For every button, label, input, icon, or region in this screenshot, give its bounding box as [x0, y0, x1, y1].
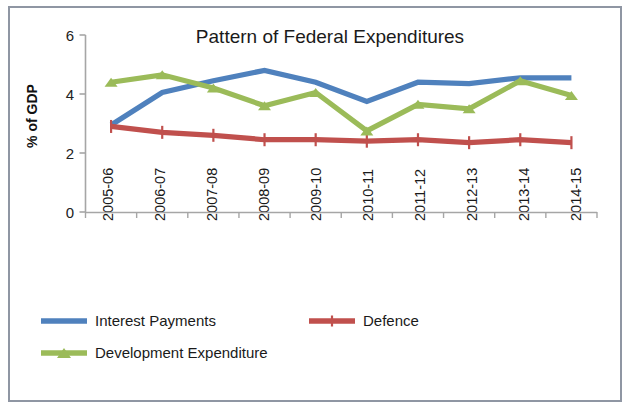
- legend-swatch-defence: [308, 314, 356, 328]
- legend-item-interest-payments[interactable]: Interest Payments: [40, 312, 216, 329]
- legend-label-development-expenditure: Development Expenditure: [95, 344, 268, 361]
- data-series-group: [105, 70, 578, 149]
- legend-item-defence[interactable]: Defence: [308, 312, 419, 329]
- series-line: [111, 75, 571, 131]
- legend-swatch-interest-payments: [40, 314, 88, 328]
- legend-label-interest-payments: Interest Payments: [95, 312, 216, 329]
- chart-page: Pattern of Federal Expenditures % of GDP…: [0, 0, 634, 414]
- series-defence: [111, 120, 571, 149]
- y-axis-ticks: [80, 35, 86, 212]
- series-line: [111, 126, 571, 142]
- axes: [80, 35, 598, 218]
- legend-swatch-development-expenditure: [40, 346, 88, 360]
- line-chart: Pattern of Federal Expenditures % of GDP…: [0, 0, 634, 414]
- legend-item-development-expenditure[interactable]: Development Expenditure: [40, 344, 268, 361]
- legend-label-defence: Defence: [363, 312, 419, 329]
